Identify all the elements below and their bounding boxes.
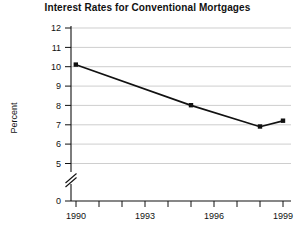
- chart-plot-area: 12 11 10 9 8 7 6 5 0 Percent 1990: [0, 0, 295, 235]
- x-tick-label-1990: 1990: [66, 211, 86, 221]
- y-tick-label-12: 12: [51, 23, 61, 33]
- series-line-interest-rate: [76, 65, 283, 127]
- gridlines: [71, 28, 291, 164]
- x-tick-labels: 1990 1993 1996 1999: [66, 211, 293, 221]
- x-tick-label-1996: 1996: [204, 211, 224, 221]
- x-tick-label-1993: 1993: [135, 211, 155, 221]
- y-tick-label-0: 0: [56, 196, 61, 206]
- x-tickmarks: [76, 201, 283, 207]
- y-tick-label-7: 7: [56, 120, 61, 130]
- y-tick-label-8: 8: [56, 101, 61, 111]
- data-point-1995: [189, 103, 193, 107]
- y-tick-label-6: 6: [56, 139, 61, 149]
- x-tick-label-1999: 1999: [273, 211, 293, 221]
- data-point-1998: [258, 124, 262, 128]
- data-point-1999: [281, 119, 285, 123]
- y-tick-label-5: 5: [56, 159, 61, 169]
- y-tick-label-9: 9: [56, 81, 61, 91]
- y-axis-title: Percent: [9, 102, 19, 134]
- y-tick-label-11: 11: [52, 43, 61, 53]
- y-tick-label-10: 10: [51, 62, 61, 72]
- data-point-markers: [74, 62, 286, 128]
- chart-container: Interest Rates for Conventional Mortgage…: [0, 0, 295, 235]
- y-tick-labels: 12 11 10 9 8 7 6 5 0: [51, 23, 61, 206]
- data-point-1990: [74, 62, 78, 66]
